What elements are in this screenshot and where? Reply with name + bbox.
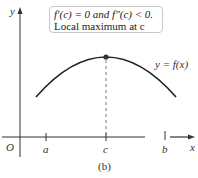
tick-label-c: c: [103, 143, 108, 155]
annotation-box: f′(c) = 0 and f″(c) < 0. Local maximum a…: [49, 6, 163, 33]
x-axis-label: x: [190, 141, 195, 153]
figure-caption: (b): [98, 160, 111, 172]
curve-label: y = f(x): [155, 58, 188, 70]
annotation-line-1: f′(c) = 0 and f″(c) < 0.: [54, 8, 158, 20]
local-max-point: [103, 54, 108, 59]
y-axis-label: y: [10, 5, 15, 17]
tick-label-b: b: [162, 143, 168, 155]
tick-label-a: a: [43, 143, 49, 155]
origin-label: O: [6, 141, 14, 153]
annotation-line-2: Local maximum at c: [54, 20, 158, 32]
x-axis-arrow-icon: [188, 135, 195, 140]
y-axis-arrow-icon: [18, 7, 23, 14]
